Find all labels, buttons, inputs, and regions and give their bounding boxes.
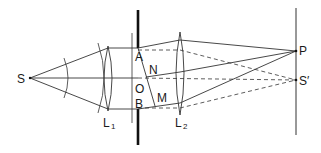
point-p-marker: [295, 50, 298, 53]
ray-a-to-l2: [138, 40, 180, 48]
label-source-s: S: [17, 72, 25, 86]
point-s-prime-marker: [295, 79, 298, 82]
label-point-n: N: [149, 63, 158, 77]
ray-s-to-l1-bottom: [30, 78, 108, 109]
label-lens-l2: L: [175, 116, 182, 130]
label-lens-l1-sub: 1: [111, 122, 116, 131]
label-image-s-prime: S′: [299, 74, 310, 88]
dash-l2-bottom-to-s-prime: [180, 80, 296, 108]
lens-l1: [104, 46, 112, 111]
label-slit-a: A: [135, 50, 143, 64]
ray-s-to-l1-top: [30, 48, 108, 78]
label-point-m: M: [157, 91, 167, 105]
ray-l2-bottom-to-p: [180, 51, 296, 103]
ray-l2-top-to-p: [180, 40, 296, 51]
source-point: [29, 77, 31, 79]
label-slit-b: B: [135, 97, 143, 111]
label-lens-l2-sub: 2: [183, 122, 188, 131]
dash-axis-to-s-prime: [138, 78, 296, 80]
label-lens-l1: L: [103, 116, 110, 130]
optics-diagram: S L 1 A O B N M L 2 P S′: [0, 0, 321, 153]
label-point-p: P: [299, 44, 307, 58]
label-center-o: O: [135, 82, 144, 96]
